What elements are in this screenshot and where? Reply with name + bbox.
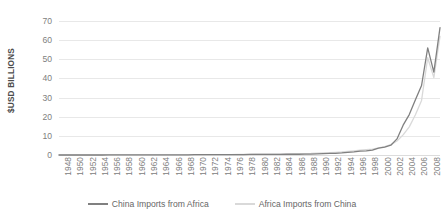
x-axis-ticks: 1948195019521954195619581960196219641966… xyxy=(59,157,440,193)
y-tick-label: 30 xyxy=(42,93,52,103)
y-tick-label: 10 xyxy=(42,131,52,141)
series-container xyxy=(59,21,440,155)
y-tick-label: 70 xyxy=(42,16,52,26)
x-tick-label: 1976 xyxy=(235,157,245,176)
y-axis-ticks: 010203040506070 xyxy=(24,0,56,170)
x-tick-label: 2004 xyxy=(407,157,417,176)
x-tick-label: 1964 xyxy=(161,157,171,176)
plot-area xyxy=(59,21,440,155)
x-tick-label: 1956 xyxy=(112,157,122,176)
x-tick-label: 1966 xyxy=(174,157,184,176)
x-tick-label: 1960 xyxy=(137,157,147,176)
x-tick-label: 1962 xyxy=(149,157,159,176)
legend-swatch-icon xyxy=(235,203,255,205)
x-tick-label: 1988 xyxy=(309,157,319,176)
legend-label: Africa Imports from China xyxy=(259,199,356,209)
x-tick-label: 2008 xyxy=(432,157,442,176)
legend-item[interactable]: China Imports from Africa xyxy=(88,199,209,209)
x-tick-label: 1978 xyxy=(247,157,257,176)
x-tick-label: 2000 xyxy=(383,157,393,176)
legend-item[interactable]: Africa Imports from China xyxy=(235,199,356,209)
x-tick-label: 1970 xyxy=(198,157,208,176)
legend-label: China Imports from Africa xyxy=(112,199,209,209)
x-tick-label: 1958 xyxy=(124,157,134,176)
y-tick-label: 20 xyxy=(42,112,52,122)
x-tick-label: 1986 xyxy=(297,157,307,176)
x-tick-label: 1994 xyxy=(346,157,356,176)
y-axis-title: $USD BILLIONS xyxy=(0,0,22,160)
y-tick-label: 50 xyxy=(42,54,52,64)
y-axis-title-label: $USD BILLIONS xyxy=(7,48,16,113)
chart-legend: China Imports from AfricaAfrica Imports … xyxy=(0,196,444,212)
x-tick-label: 1996 xyxy=(358,157,368,176)
x-tick-label: 1974 xyxy=(223,157,233,176)
x-tick-label: 2006 xyxy=(419,157,429,176)
line-chart: $USD BILLIONS 010203040506070 1948195019… xyxy=(0,0,444,221)
x-tick-label: 1980 xyxy=(260,157,270,176)
x-tick-label: 1998 xyxy=(370,157,380,176)
x-tick-label: 1954 xyxy=(100,157,110,176)
series-line xyxy=(59,36,440,155)
x-tick-label: 2002 xyxy=(395,157,405,176)
x-tick-label: 1948 xyxy=(63,157,73,176)
x-tick-label: 1984 xyxy=(284,157,294,176)
y-tick-label: 0 xyxy=(47,150,52,160)
y-tick-label: 40 xyxy=(42,73,52,83)
x-tick-label: 1950 xyxy=(75,157,85,176)
x-tick-label: 1982 xyxy=(272,157,282,176)
x-tick-label: 1968 xyxy=(186,157,196,176)
x-tick-label: 1952 xyxy=(88,157,98,176)
y-tick-label: 60 xyxy=(42,35,52,45)
x-tick-label: 1992 xyxy=(333,157,343,176)
x-tick-label: 1990 xyxy=(321,157,331,176)
legend-swatch-icon xyxy=(88,203,108,205)
x-tick-label: 1972 xyxy=(210,157,220,176)
series-line xyxy=(59,28,440,155)
